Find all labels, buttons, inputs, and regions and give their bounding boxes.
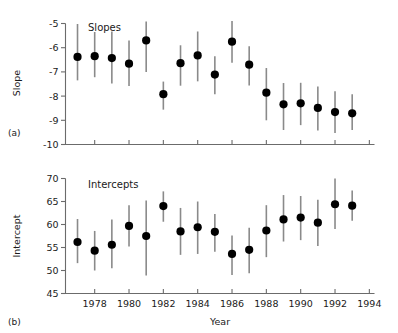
x-tick-label: 1994 — [357, 298, 381, 309]
data-point — [142, 232, 150, 240]
y-tick-label: 60 — [46, 219, 58, 230]
x-tick-label: 1984 — [186, 298, 210, 309]
data-point — [314, 219, 322, 227]
x-tick-label: 1980 — [117, 298, 141, 309]
panel-b: 7065605550451978198019821984198619881990… — [8, 173, 381, 327]
x-tick-label: 1982 — [151, 298, 175, 309]
data-point — [297, 214, 305, 222]
data-point — [194, 223, 202, 231]
data-point — [211, 228, 219, 236]
panel-title: Slopes — [88, 22, 121, 33]
data-point — [279, 100, 287, 108]
x-axis-label: Year — [209, 316, 230, 327]
data-point — [73, 53, 81, 61]
y-tick-label: 50 — [46, 265, 58, 276]
y-tick-label: -5 — [49, 18, 58, 29]
y-tick-label: 55 — [46, 242, 58, 253]
data-point — [314, 104, 322, 112]
data-point — [245, 246, 253, 254]
x-tick-label: 1988 — [254, 298, 278, 309]
data-point — [348, 109, 356, 117]
data-point — [297, 99, 305, 107]
x-tick-label: 1992 — [323, 298, 347, 309]
y-tick-label: -8 — [49, 91, 58, 102]
data-point — [228, 250, 236, 258]
y-tick-label: -7 — [49, 66, 58, 77]
figure-container: -5-6-7-8-9-10SlopesSlope(a)7065605550451… — [0, 0, 398, 333]
data-series — [73, 179, 356, 276]
data-series — [73, 21, 356, 133]
y-tick-label: -10 — [43, 139, 59, 150]
y-axis-label: Slope — [11, 70, 22, 97]
data-point — [194, 51, 202, 59]
data-point — [245, 61, 253, 69]
x-tick-label: 1986 — [220, 298, 244, 309]
data-point — [176, 227, 184, 235]
data-point — [262, 89, 270, 97]
data-point — [331, 200, 339, 208]
y-tick-label: -9 — [49, 115, 58, 126]
x-tick-label: 1978 — [83, 298, 107, 309]
data-point — [125, 60, 133, 68]
data-point — [159, 90, 167, 98]
data-point — [142, 36, 150, 44]
data-point — [108, 241, 116, 249]
x-tick-label: 1990 — [289, 298, 313, 309]
data-point — [108, 54, 116, 62]
data-point — [348, 202, 356, 210]
y-axis-label: Intercept — [11, 214, 22, 257]
panel-title: Intercepts — [88, 179, 138, 190]
two-panel-scatter-figure: -5-6-7-8-9-10SlopesSlope(a)7065605550451… — [0, 0, 398, 333]
data-point — [73, 238, 81, 246]
data-point — [91, 52, 99, 60]
y-tick-label: -6 — [49, 42, 58, 53]
data-point — [262, 226, 270, 234]
y-tick-label: 45 — [46, 288, 58, 299]
panel-tag: (b) — [8, 317, 21, 327]
y-tick-label: 65 — [46, 196, 58, 207]
data-point — [211, 70, 219, 78]
data-point — [159, 202, 167, 210]
panel-tag: (a) — [8, 128, 21, 138]
panel-a: -5-6-7-8-9-10SlopesSlope(a) — [8, 18, 375, 150]
data-point — [331, 108, 339, 116]
data-point — [228, 38, 236, 46]
data-point — [125, 222, 133, 230]
data-point — [176, 59, 184, 67]
y-tick-label: 70 — [46, 173, 58, 184]
data-point — [279, 215, 287, 223]
data-point — [91, 247, 99, 255]
